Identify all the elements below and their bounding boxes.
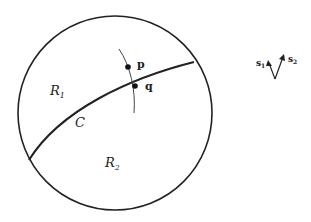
label-s2: s2 (288, 54, 297, 65)
diagram-canvas: p q R1 R2 C s1 s2 (0, 0, 311, 222)
vectors-s1-s2: s1 s2 (256, 54, 297, 79)
vector-s1-arrowhead (266, 60, 272, 66)
label-c: C (75, 115, 85, 130)
transverse-arc (119, 49, 134, 113)
point-p (125, 64, 131, 70)
curve-c (29, 62, 194, 160)
label-r1: R1 (49, 83, 65, 100)
point-q (132, 83, 138, 89)
label-s1: s1 (256, 58, 265, 69)
label-p: p (137, 58, 145, 71)
label-r2: R2 (104, 155, 120, 172)
vector-s2-line (275, 57, 283, 79)
label-q: q (145, 80, 153, 93)
vector-s2-arrowhead (279, 54, 285, 61)
boundary-circle (18, 16, 212, 210)
